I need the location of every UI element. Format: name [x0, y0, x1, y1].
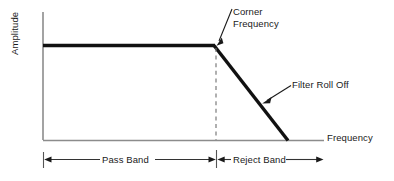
- x-axis-label: Frequency: [327, 132, 373, 143]
- reject-band-right-arrowhead-icon: [316, 157, 323, 163]
- reject-band-label: Reject Band: [233, 154, 286, 165]
- pass-band-right-arrowhead-icon: [209, 157, 216, 163]
- filter-rolloff-label: Filter Roll Off: [292, 79, 349, 90]
- reject-band-left-arrowhead-icon: [217, 157, 224, 163]
- y-axis-label: Amplitude: [9, 0, 20, 55]
- axis-group: [43, 12, 324, 141]
- corner-frequency-callout-leader: [217, 9, 233, 46]
- filter-response-diagram: Amplitude Frequency Corner Frequency Fil…: [0, 0, 394, 181]
- corner-frequency-leader-line: [219, 9, 232, 41]
- filter-response-curve: [43, 46, 288, 141]
- corner-frequency-label-line2: Frequency: [233, 18, 279, 29]
- diagram-canvas: [0, 0, 394, 181]
- filter-rolloff-callout-leader: [262, 86, 291, 104]
- corner-frequency-label-line1: Corner: [233, 6, 263, 17]
- roll-off-slope-segment: [214, 46, 288, 141]
- corner-frequency-label: Corner Frequency: [233, 6, 279, 29]
- pass-band-label: Pass Band: [102, 154, 149, 165]
- pass-band-left-arrowhead-icon: [44, 157, 51, 163]
